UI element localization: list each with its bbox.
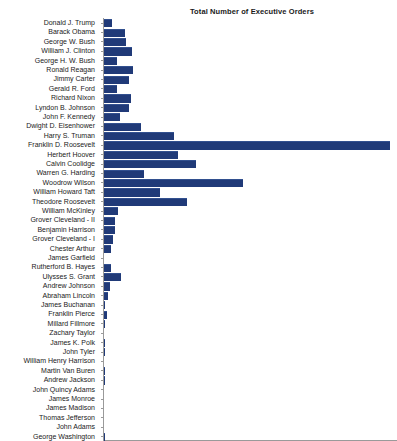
bar-category-label: Gerald R. Ford (0, 84, 95, 94)
bar-category-label: Benjamin Harrison (0, 225, 95, 235)
bar (104, 38, 126, 46)
bar-category-label: Harry S. Truman (0, 131, 95, 141)
bar (104, 132, 174, 140)
bar-row: Abraham Lincoln (0, 291, 397, 300)
bar-row: James Buchanan (0, 300, 397, 309)
bar-category-label: Thomas Jefferson (0, 413, 95, 423)
bar-category-label: Abraham Lincoln (0, 291, 95, 301)
bar-row: George W. Bush (0, 37, 397, 46)
axis-tick-mark (101, 427, 104, 428)
bar-row: John Tyler (0, 347, 397, 356)
bar-category-label: Barack Obama (0, 27, 95, 37)
bar-category-label: Calvin Coolidge (0, 159, 95, 169)
bar-category-label: Donald J. Trump (0, 18, 95, 28)
bar-row: Andrew Jackson (0, 375, 397, 384)
bar (104, 47, 132, 55)
bar-row: James Monroe (0, 394, 397, 403)
bar-category-label: Franklin D. Roosevelt (0, 140, 95, 150)
axis-tick-mark (101, 361, 104, 362)
bar (104, 376, 105, 384)
bar (104, 245, 111, 253)
bar-row: William J. Clinton (0, 46, 397, 55)
bar (104, 367, 105, 375)
bar (104, 170, 144, 178)
bar (104, 311, 107, 319)
bar-category-label: Rutherford B. Hayes (0, 262, 95, 272)
bar (104, 104, 129, 112)
bar-category-label: Millard Fillmore (0, 319, 95, 329)
bar-category-label: George W. Bush (0, 37, 95, 47)
bar-category-label: Jimmy Carter (0, 74, 95, 84)
bar (104, 85, 117, 93)
bar-row: Benjamin Harrison (0, 225, 397, 234)
bar (104, 301, 105, 309)
bar-row: Zachary Taylor (0, 328, 397, 337)
bar-category-label: James Monroe (0, 394, 95, 404)
bar-row: Donald J. Trump (0, 18, 397, 27)
bar-category-label: Grover Cleveland - II (0, 215, 95, 225)
bar-category-label: William J. Clinton (0, 46, 95, 56)
bar-category-label: James Buchanan (0, 300, 95, 310)
bar-row: Chester Arthur (0, 244, 397, 253)
bar-category-label: Dwight D. Eisenhower (0, 121, 95, 131)
bar (104, 160, 196, 168)
bar-row: Rutherford B. Hayes (0, 262, 397, 271)
bar-row: Theodore Roosevelt (0, 197, 397, 206)
bar (104, 273, 121, 281)
axis-tick-mark (101, 417, 104, 418)
bar (104, 76, 129, 84)
chart-title: Total Number of Executive Orders (190, 7, 390, 16)
bar-category-label: John Quincy Adams (0, 385, 95, 395)
bar-category-label: Woodrow Wilson (0, 178, 95, 188)
bar-row: Andrew Johnson (0, 281, 397, 290)
bar-row: Franklin Pierce (0, 309, 397, 318)
bar-row: Richard Nixon (0, 93, 397, 102)
bar-row: George H. W. Bush (0, 56, 397, 65)
bar-category-label: John F. Kennedy (0, 112, 95, 122)
bar-row: Franklin D. Roosevelt (0, 140, 397, 149)
bar (104, 141, 390, 149)
bar (104, 207, 118, 215)
bar (104, 151, 178, 159)
bar-category-label: George H. W. Bush (0, 56, 95, 66)
bar (104, 282, 110, 290)
bar-category-label: Martin Van Buren (0, 366, 95, 376)
bar (104, 66, 133, 74)
bar-row: Barack Obama (0, 27, 397, 36)
axis-tick-mark (101, 408, 104, 409)
bar-category-label: Warren G. Harding (0, 168, 95, 178)
bar-category-label: Zachary Taylor (0, 328, 95, 338)
axis-tick-mark (101, 258, 104, 259)
plot-area: Donald J. TrumpBarack ObamaGeorge W. Bus… (0, 18, 397, 441)
bar (104, 292, 108, 300)
bar-row: James Garfield (0, 253, 397, 262)
bar-category-label: Andrew Jackson (0, 375, 95, 385)
bar-row: Gerald R. Ford (0, 84, 397, 93)
bar-category-label: Lyndon B. Johnson (0, 103, 95, 113)
bar (104, 19, 112, 27)
axis-tick-mark (101, 399, 104, 400)
bar-category-label: Theodore Roosevelt (0, 197, 95, 207)
axis-tick-mark (101, 333, 104, 334)
bar-category-label: Herbert Hoover (0, 150, 95, 160)
bar (104, 57, 117, 65)
bar (104, 226, 115, 234)
bar-row: Calvin Coolidge (0, 159, 397, 168)
bar-row: Ulysses S. Grant (0, 272, 397, 281)
bar (104, 113, 120, 121)
bar-row: William Howard Taft (0, 187, 397, 196)
bar-row: Jimmy Carter (0, 74, 397, 83)
bar-category-label: James K. Polk (0, 338, 95, 348)
bar (104, 188, 160, 196)
bar-row: Grover Cleveland - I (0, 234, 397, 243)
bar (104, 94, 131, 102)
bar-row: Warren G. Harding (0, 168, 397, 177)
bar (104, 433, 105, 441)
bar (104, 235, 113, 243)
bar-row: Grover Cleveland - II (0, 215, 397, 224)
bar (104, 339, 105, 347)
bar-category-label: William McKinley (0, 206, 95, 216)
bar-row: John Adams (0, 422, 397, 431)
executive-orders-bar-chart: Total Number of Executive Orders Donald … (0, 0, 397, 441)
bar-category-label: Grover Cleveland - I (0, 234, 95, 244)
